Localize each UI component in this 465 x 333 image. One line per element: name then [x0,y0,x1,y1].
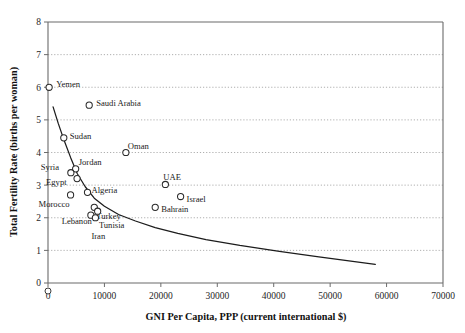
point-marker [92,215,98,221]
x-axis-title: GNI Per Capita, PPP (current internation… [146,311,347,323]
point-label: Jordan [79,157,103,167]
data-point: Morocco [39,192,74,209]
data-point: Egypt [46,176,80,187]
origin-legend-marker [45,288,51,294]
y-tick-label: 2 [36,213,41,223]
x-tick-label: 10000 [93,291,117,301]
point-label: Egypt [46,177,67,187]
y-tick-label: 3 [36,181,41,191]
data-point: Yemen [46,79,81,90]
data-point: Bahrain [152,204,189,214]
y-tick-label: 0 [36,278,41,288]
y-tick-label: 8 [36,17,41,27]
data-point: Oman [123,141,150,156]
point-label: Yemen [56,79,81,89]
point-marker [46,84,52,90]
data-point: Sudan [61,131,92,141]
x-tick-label: 40000 [262,291,286,301]
data-point: Jordan [73,157,103,172]
point-marker [95,208,101,214]
point-label: Sudan [70,131,92,141]
data-point: Syria [41,162,74,176]
point-marker [152,204,158,210]
point-label: Syria [41,162,59,172]
data-point: Israel [178,193,207,203]
x-tick-label: 60000 [375,291,399,301]
point-marker [61,135,67,141]
point-marker [68,170,74,176]
point-label: Lebanon [62,216,93,226]
point-label: Algeria [92,185,118,195]
x-tick-label: 20000 [149,291,173,301]
point-label: Morocco [39,199,70,209]
x-tick-label: 70000 [431,291,455,301]
y-axis-title: Total Fertility Rate (births per woman) [8,67,20,237]
y-tick-label: 5 [36,115,41,125]
x-axis-ticks: 010000200003000040000500006000070000 [46,283,456,301]
point-marker [74,176,80,182]
y-tick-label: 7 [36,50,41,60]
x-tick-label: 30000 [205,291,229,301]
y-axis-ticks: 012345678 [36,17,48,288]
point-label: Saudi Arabia [96,98,141,108]
y-tick-label: 6 [36,83,41,93]
data-point: Algeria [84,185,117,195]
point-label: Iran [91,231,106,241]
point-marker [84,189,90,195]
point-marker [86,102,92,108]
data-point: Saudi Arabia [86,98,141,108]
point-label: Israel [187,194,207,204]
fertility-vs-gni-scatter-chart: 010000200003000040000500006000070000 012… [0,0,465,333]
y-tick-label: 1 [36,246,41,256]
origin-legend-circle [45,288,51,294]
point-marker [67,192,73,198]
x-tick-label: 50000 [318,291,342,301]
point-label: UAE [163,172,181,182]
y-tick-label: 4 [36,148,41,158]
chart-container: 010000200003000040000500006000070000 012… [0,0,465,333]
point-label: Tunisia [99,220,125,230]
point-marker [178,193,184,199]
point-label: Oman [128,141,150,151]
point-label: Bahrain [161,204,189,214]
